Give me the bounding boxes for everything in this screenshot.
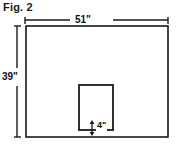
inner-offset-dimension-label: 4" <box>96 120 107 131</box>
width-dimension-line-group <box>25 17 168 24</box>
figure-container: Fig. 2 51" 39" 4" <box>0 0 176 148</box>
width-dimension-label: 51" <box>74 14 92 25</box>
height-dimension-label: 39" <box>1 71 19 82</box>
